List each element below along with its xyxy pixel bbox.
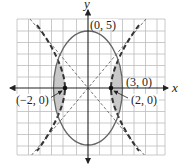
vertex-right-label: (2, 0): [131, 93, 157, 107]
y-axis-label: y: [82, 0, 90, 11]
vertex-left-label: (−2, 0): [16, 93, 49, 107]
ellipse-top-label: (0, 5): [90, 18, 116, 32]
vertex-right-dot: [109, 86, 114, 91]
graph: x y (0, 5) (3, 0) (2, 0) (−2, 0): [0, 0, 182, 167]
vertex-left-dot: [63, 86, 68, 91]
ellipse-right-label: (3, 0): [126, 75, 152, 89]
x-axis-label: x: [171, 80, 178, 95]
